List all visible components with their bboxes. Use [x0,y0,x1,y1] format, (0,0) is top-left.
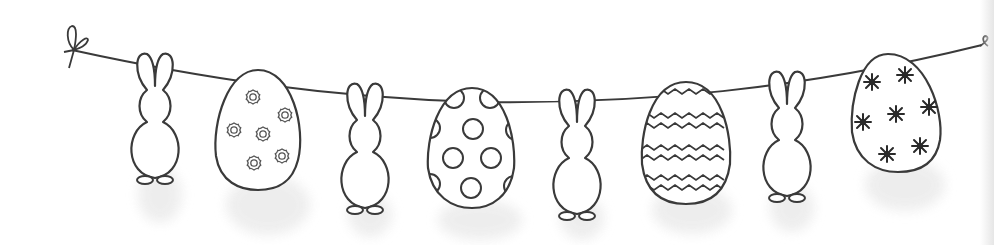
bunny-2 [341,84,388,214]
garland-string [72,45,982,102]
egg-flowers [215,70,300,190]
right-edge-shade [980,0,994,245]
bow-knot-icon [64,26,88,68]
easter-garland-illustration: Easter bunnies and eggs garland [0,0,994,245]
garland-svg [0,0,994,245]
bunny-3 [553,90,600,220]
bunny-1 [131,54,178,184]
egg-stars [852,54,941,172]
egg-dots [420,88,526,208]
egg-zigzag [640,82,730,204]
bunny-4 [763,72,810,202]
